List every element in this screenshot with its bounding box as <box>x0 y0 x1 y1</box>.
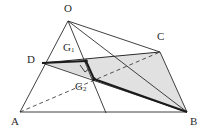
vertex-label-B-text: B <box>190 115 197 127</box>
vertex-label-C: C <box>157 31 164 42</box>
vertex-label-G2: G2 <box>75 81 86 93</box>
vertex-label-D: D <box>27 54 35 65</box>
vertex-label-G2-subscript: 2 <box>83 85 87 93</box>
vertex-label-A-text: A <box>11 115 19 127</box>
vertex-label-O: O <box>64 3 72 14</box>
geometry-canvas <box>0 0 205 135</box>
edge-O-C <box>68 21 160 52</box>
vertex-label-D-text: D <box>27 53 35 65</box>
vertex-label-G2-text: G <box>75 80 83 92</box>
vertex-label-G1-text: G <box>63 41 71 53</box>
geometry-figure: O A B C D G1 G2 <box>0 0 205 135</box>
vertex-label-B: B <box>190 116 197 127</box>
vertex-label-G1-subscript: 1 <box>71 46 75 54</box>
vertex-label-O-text: O <box>64 2 72 14</box>
vertex-label-C-text: C <box>157 30 164 42</box>
point-dot-G1 <box>84 59 88 63</box>
point-dot-G2 <box>92 77 96 81</box>
vertex-label-G1: G1 <box>63 42 74 54</box>
vertex-label-A: A <box>11 116 19 127</box>
